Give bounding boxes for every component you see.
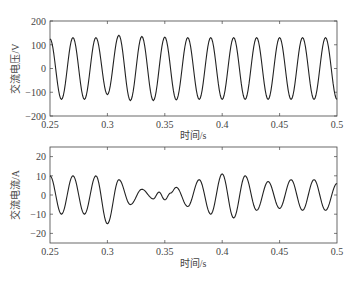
xtick-label: 0.4: [216, 246, 229, 257]
xtick-label: 0.45: [271, 119, 289, 130]
ytick-label: 20: [36, 151, 46, 162]
current-trace: [50, 174, 337, 224]
voltage-plot: 200 100 0 −100 −200 0.25 0.3 0.35 0.4 0.…: [9, 16, 343, 141]
voltage-y-axis-label: 交流电压/V: [9, 43, 21, 94]
ytick-label: 0: [41, 63, 46, 74]
xtick-label: 0.5: [331, 246, 344, 257]
current-x-axis-label: 时间/s: [180, 257, 207, 269]
xtick-label: 0.3: [101, 119, 114, 130]
voltage-trace: [50, 35, 337, 100]
xtick-label: 0.5: [331, 119, 344, 130]
ytick-label: −100: [25, 87, 46, 98]
ytick-label: 10: [36, 171, 46, 182]
xtick-label: 0.4: [216, 119, 229, 130]
current-x-tick-labels: 0.25 0.3 0.35 0.4 0.45 0.5: [41, 246, 343, 257]
xtick-label: 0.35: [156, 119, 174, 130]
xtick-label: 0.25: [41, 119, 59, 130]
current-plot: 20 10 0 −10 −20 0.25 0.3 0.35 0.4 0.45 0…: [9, 147, 343, 269]
figure: 200 100 0 −100 −200 0.25 0.3 0.35 0.4 0.…: [0, 0, 357, 283]
xtick-label: 0.25: [41, 246, 59, 257]
voltage-x-axis-label: 时间/s: [180, 129, 207, 141]
voltage-x-tick-labels: 0.25 0.3 0.35 0.4 0.45 0.5: [41, 119, 343, 130]
xtick-label: 0.3: [101, 246, 114, 257]
current-y-tick-labels: 20 10 0 −10 −20: [30, 151, 46, 239]
ytick-label: 200: [31, 16, 46, 27]
ytick-label: −20: [30, 228, 46, 239]
ytick-label: −10: [30, 209, 46, 220]
current-y-axis-label: 交流电流/A: [9, 169, 21, 220]
xtick-label: 0.45: [271, 246, 289, 257]
ytick-label: 100: [31, 40, 46, 51]
ytick-label: 0: [41, 190, 46, 201]
xtick-label: 0.35: [156, 246, 174, 257]
voltage-y-tick-labels: 200 100 0 −100 −200: [25, 16, 46, 122]
